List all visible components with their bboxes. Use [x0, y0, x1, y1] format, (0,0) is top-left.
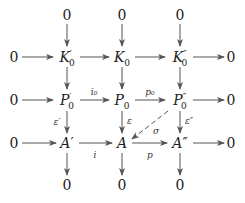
node-A: A [115, 135, 127, 151]
node-P0-prime: P′0 [59, 92, 74, 111]
label-eps: ε [127, 116, 132, 126]
node-row1-right-0: 0 [227, 49, 236, 65]
node-A-dprime: A″ [170, 135, 188, 151]
label-sigma: σ [153, 126, 160, 136]
label-p: p [147, 150, 153, 160]
node-row2-left-0: 0 [10, 92, 19, 108]
node-K0-prime: K′0 [58, 49, 75, 68]
node-K0: K0 [113, 49, 130, 68]
arrow-sigma-dashed [132, 111, 168, 139]
label-p0: p₀ [145, 87, 155, 97]
label-i0: i₀ [91, 87, 98, 97]
node-bottom-0-left: 0 [63, 177, 72, 193]
node-top-0-left: 0 [63, 7, 72, 23]
node-row3-left-0: 0 [10, 135, 19, 151]
node-P0: P0 [113, 92, 129, 111]
node-row2-right-0: 0 [227, 92, 236, 108]
node-bottom-0-mid: 0 [118, 177, 127, 193]
label-i: i [94, 150, 97, 160]
node-bottom-0-right: 0 [176, 177, 185, 193]
node-top-0-right: 0 [176, 7, 185, 23]
node-row1-left-0: 0 [10, 49, 19, 65]
node-P0-dprime: P″0 [172, 92, 187, 111]
commutative-diagram: 0 0 0 0 K′0 K0 K″0 0 0 P′0 P0 P″0 0 i₀ p… [0, 0, 245, 203]
label-eps-dprime: ε″ [185, 116, 194, 126]
node-A-prime: A′ [58, 135, 74, 151]
node-row3-right-0: 0 [227, 135, 236, 151]
node-top-0-mid: 0 [118, 7, 127, 23]
label-eps-prime: ε′ [54, 117, 61, 127]
node-K0-dprime: K″0 [172, 49, 188, 68]
